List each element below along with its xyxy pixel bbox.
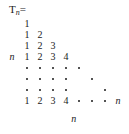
title-symbol: T xyxy=(9,3,16,15)
triangular-number-array-figure: Tn= 11212312341234n n n xyxy=(0,0,129,134)
array-dot xyxy=(39,89,42,92)
array-dot xyxy=(91,100,94,103)
array-number-cell: 1 xyxy=(22,96,32,106)
array-number-cell: 1 xyxy=(22,30,32,40)
array-dot xyxy=(78,100,81,103)
array-dot xyxy=(52,67,55,70)
array-number-cell: 4 xyxy=(61,96,71,106)
array-number-cell: 3 xyxy=(48,52,58,62)
array-dot xyxy=(91,78,94,81)
array-dot xyxy=(26,89,29,92)
array-dot xyxy=(65,89,68,92)
array-dot xyxy=(104,100,107,103)
array-number-cell: 4 xyxy=(61,52,71,62)
array-number-cell: 2 xyxy=(35,96,45,106)
array-row-end-label-n: n xyxy=(113,96,123,106)
array-dot xyxy=(104,89,107,92)
array-dot xyxy=(39,67,42,70)
array-number-cell: 3 xyxy=(48,96,58,106)
array-dot xyxy=(52,89,55,92)
array-dot xyxy=(78,67,81,70)
title-equals: = xyxy=(20,3,26,15)
array-number-cell: 2 xyxy=(35,30,45,40)
array-number-cell: 2 xyxy=(35,52,45,62)
array-dot xyxy=(65,78,68,81)
array-number-cell: 3 xyxy=(48,41,58,51)
array-dot xyxy=(65,67,68,70)
array-number-cell: 1 xyxy=(22,41,32,51)
array-number-cell: 2 xyxy=(35,41,45,51)
array-dot xyxy=(26,67,29,70)
axis-label-left-n: n xyxy=(7,52,17,62)
array-number-cell: 1 xyxy=(22,52,32,62)
array-dot xyxy=(39,78,42,81)
array-number-cell: 1 xyxy=(22,19,32,29)
array-dot xyxy=(52,78,55,81)
array-dot xyxy=(26,78,29,81)
axis-label-bottom-n: n xyxy=(69,114,79,124)
figure-title: Tn= xyxy=(9,4,26,18)
